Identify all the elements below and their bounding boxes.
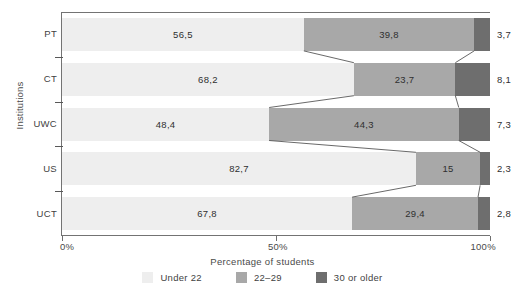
y-axis-tick-label-us: US [11,163,57,174]
bar-segment: 39,8 [304,18,474,51]
bar-segment [455,63,490,96]
bar-segment-value: 23,7 [354,63,455,96]
bar-segment: 29,4 [352,197,478,230]
y-axis-tick [55,191,63,192]
bar-row: 48,444,3 [62,108,490,141]
bar-segment: 48,4 [62,108,269,141]
bar-segment [459,108,490,141]
legend-label: 30 or older [334,272,383,283]
bar-segment [474,18,490,51]
legend-label: Under 22 [160,272,201,283]
bar-segment: 15 [416,152,480,185]
bar-segment: 44,3 [269,108,459,141]
x-axis-title: Percentage of students [0,256,525,267]
bar-segment: 68,2 [62,63,354,96]
y-axis-tick [55,57,63,58]
bar-segment [480,152,490,185]
bar-outside-value: 2,8 [497,197,525,230]
legend-label: 22–29 [254,272,282,283]
bar-row: 56,539,8 [62,18,490,51]
legend-item[interactable]: Under 22 [142,272,201,283]
bar-segment-value: 82,7 [62,152,416,185]
bar-segment-value: 48,4 [62,108,269,141]
y-axis-tick-label-uct: UCT [11,208,57,219]
bar-outside-value: 3,7 [497,18,525,51]
legend-swatch-icon [142,272,153,283]
bar-row: 82,715 [62,152,490,185]
bar-segment-value: 68,2 [62,63,354,96]
bar-row: 68,223,7 [62,63,490,96]
bar-segment-value: 29,4 [352,197,478,230]
y-axis-tick-label-pt: PT [11,28,57,39]
y-axis-tick-label-uwc: UWC [11,118,57,129]
y-axis-tick-label-ct: CT [11,73,57,84]
y-axis-tick [55,146,63,147]
legend-swatch-icon [236,272,247,283]
bar-outside-value: 8,1 [497,63,525,96]
bar-segment-value: 56,5 [62,18,304,51]
bar-outside-value: 7,3 [497,108,525,141]
bar-segment [478,197,490,230]
bar-outside-value: 2,3 [497,152,525,185]
bar-segment: 82,7 [62,152,416,185]
legend-item[interactable]: 22–29 [236,272,282,283]
x-axis-tick-label: 50% [268,241,288,252]
bar-segment-value: 15 [416,152,480,185]
bar-segment: 67,8 [62,197,352,230]
legend-item[interactable]: 30 or older [316,272,383,283]
bar-segment: 56,5 [62,18,304,51]
y-axis-category-labels: PTCTUWCUSUCT [0,0,57,235]
plot-frame-top [62,12,490,13]
stacked-bar-chart: Institutions PTCTUWCUSUCT 56,539,868,223… [0,0,525,290]
x-axis-tick-label: 0% [60,241,74,252]
bar-segment: 23,7 [354,63,455,96]
bar-segment-value: 44,3 [269,108,459,141]
bar-segment-value: 67,8 [62,197,352,230]
plot-area: 56,539,868,223,748,444,382,71567,829,4 [62,12,490,236]
bar-row: 67,829,4 [62,197,490,230]
x-axis-tick-label: 100% [470,241,496,252]
bar-segment-value: 39,8 [304,18,474,51]
y-axis-tick [55,102,63,103]
legend-swatch-icon [316,272,327,283]
chart-legend: Under 2222–2930 or older [0,272,525,283]
